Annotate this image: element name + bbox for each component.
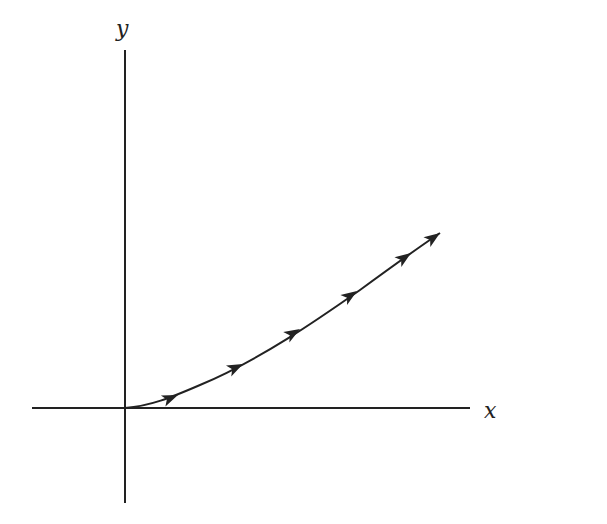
y-axis-label: y — [115, 16, 129, 41]
trajectory-curve — [125, 233, 440, 408]
arrowhead-icon — [226, 359, 246, 377]
diagram-canvas: y x — [0, 0, 607, 524]
arrowhead-icon — [394, 248, 414, 267]
arrowhead-icon — [423, 228, 443, 247]
direction-arrows — [161, 228, 444, 406]
x-axis-label: x — [484, 398, 497, 423]
arrowhead-icon — [161, 389, 180, 406]
